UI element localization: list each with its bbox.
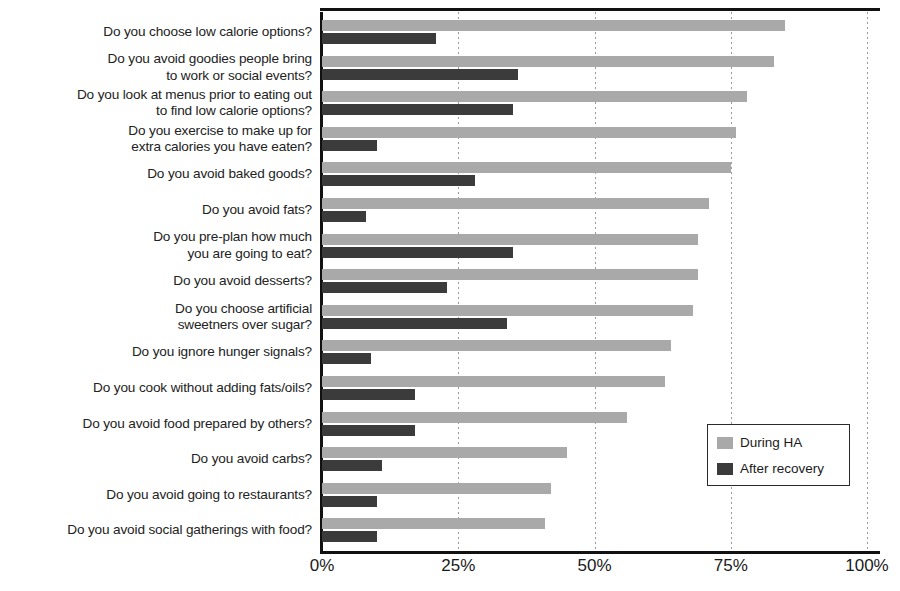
bar-after-recovery [322, 389, 415, 400]
category-label: Do you choose artificial sweetners over … [0, 301, 312, 333]
bar-after-recovery [322, 211, 366, 222]
bar-after-recovery [322, 531, 377, 542]
x-tick-label: 75% [714, 556, 748, 576]
axis-top-line [320, 8, 880, 11]
category-label: Do you avoid fats? [0, 202, 312, 218]
axis-bottom-line [320, 551, 880, 554]
grouped-bar-chart: Do you choose low calorie options?Do you… [0, 0, 900, 591]
bar-during-ha [322, 198, 709, 209]
category-label: Do you avoid carbs? [0, 451, 312, 467]
bar-group [322, 269, 867, 295]
category-label: Do you avoid food prepared by others? [0, 416, 312, 432]
bar-after-recovery [322, 460, 382, 471]
bar-after-recovery [322, 247, 513, 258]
x-tick-label: 0% [310, 556, 335, 576]
bar-during-ha [322, 412, 627, 423]
category-label: Do you avoid social gatherings with food… [0, 522, 312, 538]
bar-during-ha [322, 234, 698, 245]
legend-item-after-recovery: After recovery [717, 461, 824, 476]
bar-after-recovery [322, 425, 415, 436]
bar-group [322, 234, 867, 260]
bar-group [322, 305, 867, 331]
bar-group [322, 20, 867, 46]
bar-group [322, 376, 867, 402]
legend-label-after-recovery: After recovery [740, 461, 824, 476]
bar-during-ha [322, 340, 671, 351]
bar-group [322, 162, 867, 188]
bar-during-ha [322, 518, 545, 529]
legend-swatch-after-recovery [717, 463, 733, 475]
category-label: Do you pre-plan how much you are going t… [0, 229, 312, 261]
category-label: Do you choose low calorie options? [0, 24, 312, 40]
bar-after-recovery [322, 175, 475, 186]
bar-after-recovery [322, 318, 507, 329]
category-label: Do you ignore hunger signals? [0, 344, 312, 360]
category-label: Do you avoid baked goods? [0, 166, 312, 182]
bar-during-ha [322, 162, 731, 173]
bar-during-ha [322, 127, 736, 138]
bar-after-recovery [322, 33, 436, 44]
x-tick-label: 100% [845, 556, 888, 576]
bar-after-recovery [322, 282, 447, 293]
category-label-column: Do you choose low calorie options?Do you… [0, 12, 312, 552]
category-label: Do you avoid desserts? [0, 273, 312, 289]
gridline-100% [867, 12, 868, 552]
bar-group [322, 340, 867, 366]
category-label: Do you avoid going to restaurants? [0, 487, 312, 503]
bar-after-recovery [322, 140, 377, 151]
legend-item-during-ha: During HA [717, 435, 802, 450]
bar-after-recovery [322, 496, 377, 507]
x-axis-tick-labels: 0%25%50%75%100% [322, 556, 882, 584]
category-label: Do you look at menus prior to eating out… [0, 87, 312, 119]
bar-after-recovery [322, 104, 513, 115]
bar-during-ha [322, 269, 698, 280]
category-label: Do you avoid goodies people bring to wor… [0, 51, 312, 83]
bar-group [322, 518, 867, 544]
x-tick-label: 50% [577, 556, 611, 576]
x-tick-label: 25% [441, 556, 475, 576]
bar-during-ha [322, 56, 774, 67]
bar-during-ha [322, 20, 785, 31]
bar-during-ha [322, 91, 747, 102]
bar-during-ha [322, 376, 665, 387]
chart-legend: During HA After recovery [707, 424, 850, 486]
legend-swatch-during-ha [717, 437, 733, 449]
legend-label-during-ha: During HA [740, 435, 802, 450]
category-label: Do you exercise to make up for extra cal… [0, 123, 312, 155]
category-label: Do you cook without adding fats/oils? [0, 380, 312, 396]
bar-group [322, 198, 867, 224]
bar-group [322, 127, 867, 153]
bar-after-recovery [322, 353, 371, 364]
bar-after-recovery [322, 69, 518, 80]
bar-group [322, 91, 867, 117]
bar-during-ha [322, 305, 693, 316]
bar-during-ha [322, 483, 551, 494]
bar-during-ha [322, 447, 567, 458]
bar-group [322, 56, 867, 82]
bar-group [322, 483, 867, 509]
